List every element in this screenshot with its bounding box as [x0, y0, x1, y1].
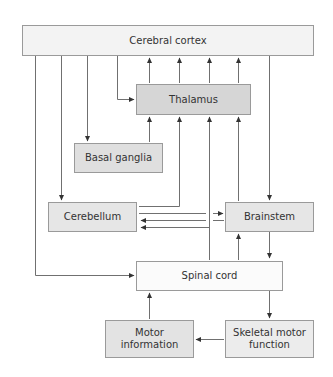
node-motor-information: Motor information	[105, 320, 194, 358]
node-skeletal-motor-function: Skeletal motor function	[225, 320, 314, 358]
node-label-line2: function	[249, 339, 290, 351]
node-label: Basal ganglia	[85, 152, 152, 164]
node-spinal-cord: Spinal cord	[136, 261, 283, 291]
node-label: Spinal cord	[182, 270, 238, 282]
node-label: Brainstem	[244, 211, 295, 223]
node-basal-ganglia: Basal ganglia	[74, 143, 163, 173]
node-label-line1: Motor	[135, 327, 164, 339]
node-label: Thalamus	[169, 94, 218, 106]
node-label-line1: Skeletal motor	[233, 327, 306, 339]
node-label-line2: information	[121, 339, 179, 351]
motor-pathway-diagram: Cerebral cortex Thalamus Basal ganglia C…	[0, 0, 333, 377]
node-label: Cerebellum	[64, 211, 121, 223]
node-thalamus: Thalamus	[136, 84, 251, 115]
node-brainstem: Brainstem	[225, 202, 314, 232]
node-cerebellum: Cerebellum	[48, 202, 137, 232]
edge-cortex-to-thalamus	[118, 56, 135, 100]
node-cerebral-cortex: Cerebral cortex	[22, 25, 314, 56]
node-label: Cerebral cortex	[129, 35, 206, 47]
